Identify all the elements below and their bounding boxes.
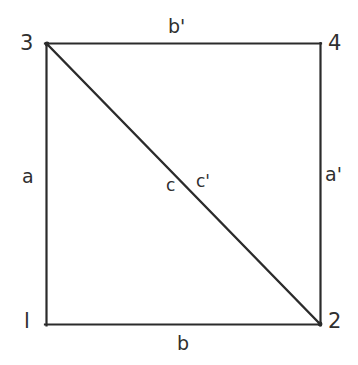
vertex-label-4: 4: [328, 33, 341, 54]
edge-label-a: a: [22, 167, 34, 186]
edge-label-b: b: [177, 334, 189, 353]
vertex-dot-top-left: [45, 42, 50, 47]
vertex-dot-bottom-right: [318, 322, 323, 327]
diagonal-label-c-prime: c': [196, 173, 210, 190]
vertex-label-2: 2: [328, 311, 341, 332]
edge-label-b-prime: b': [168, 17, 185, 36]
edge-label-a-prime: a': [325, 165, 342, 184]
diagram-canvas: 3 4 l 2 b' b a a' c c': [0, 0, 358, 365]
square-diagram-svg: [0, 0, 358, 365]
vertex-label-1: l: [24, 311, 30, 332]
vertex-label-3: 3: [20, 33, 33, 54]
diagonal-label-c: c: [166, 177, 175, 194]
diagonal-line-c: [47, 44, 321, 325]
